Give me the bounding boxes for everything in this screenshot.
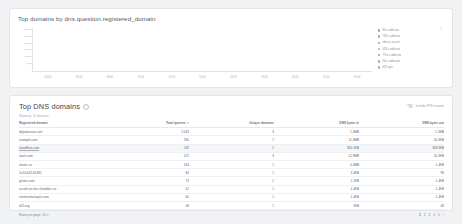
x-axis-label: 18:00: [249, 73, 279, 83]
table-row[interactable]: cloudflare.com2322850.1KB358.6KB: [19, 144, 444, 152]
x-axis-label: 06:00: [64, 73, 94, 83]
x-axis-label: 12:00: [157, 73, 187, 83]
cell-unique-domains: 3: [189, 128, 274, 136]
column-header[interactable]: DNS bytes out: [359, 121, 444, 128]
legend-item-label: 763-t-addr.ota: [382, 34, 400, 39]
cell-unique-domains: 1: [189, 193, 274, 201]
cell-registered-domain: contentstackapis.com: [19, 193, 104, 201]
cell-registered-domain: example.com: [19, 136, 104, 144]
info-icon[interactable]: [83, 104, 90, 111]
x-axis-label: 16:00: [218, 73, 248, 83]
cell-bytes-out: 1.4KB: [359, 177, 444, 185]
column-header[interactable]: Total queries▾: [104, 121, 189, 128]
domain-link[interactable]: digitalocean.com: [19, 130, 42, 134]
y-axis-tick: 15,000: [24, 49, 31, 52]
table-row[interactable]: slack.com207312.9MB34.3KB: [19, 152, 444, 160]
cell-total-queries: 67: [104, 185, 189, 193]
table-row[interactable]: d15.org4811KB48: [19, 201, 444, 209]
legend-item[interactable]: 018-t-addr.ota: [378, 47, 444, 52]
cell-total-queries: 60: [104, 193, 189, 201]
dns-domains-table: Registered domainTotal queries▾Unique do…: [19, 121, 444, 211]
column-header[interactable]: Registered domain: [19, 121, 104, 128]
chart-plot-area[interactable]: 30,00025,00020,00015,00010,0005,0000 04:…: [18, 26, 374, 84]
cell-registered-domain: elastic.co: [19, 161, 104, 169]
table-row[interactable]: gstatic.com7422.1KB1.4KB: [19, 177, 444, 185]
pagination-page[interactable]: 5: [438, 213, 440, 218]
pagination-page[interactable]: 3: [429, 213, 431, 218]
domain-link[interactable]: d15.org: [19, 204, 30, 208]
chart-legend: ⋮ 80-t-addr.ovo763-t-addr.otawbcsv-sv.ce…: [374, 26, 444, 84]
x-axis-label: 22:00: [311, 73, 341, 83]
legend-item[interactable]: 763-t-addr.ota: [378, 34, 444, 39]
legend-color-dot: [378, 48, 380, 50]
pagination: 12345›: [419, 213, 444, 218]
table-row[interactable]: elastic.co16414.4MB1.4KB: [19, 161, 444, 169]
rows-per-page-select[interactable]: Rows per page: 10 ▾: [19, 213, 49, 218]
pagination-page[interactable]: 4: [433, 213, 435, 218]
column-header[interactable]: DNS bytes in: [274, 121, 359, 128]
legend-item-label: 77m-t-addr.ota: [382, 53, 401, 58]
domain-link[interactable]: contentstackapis.com: [19, 195, 49, 199]
cell-bytes-in: 2.1KB: [274, 177, 359, 185]
legend-item[interactable]: d15.ops: [378, 65, 444, 70]
x-axis-labels: 04:0006:0008:0010:0012:0014:0016:0018:00…: [33, 73, 372, 83]
domain-link[interactable]: as-wifi-on-the-chandid.e.co: [19, 187, 56, 191]
cell-bytes-in: 11.4MB: [274, 136, 359, 144]
table-row[interactable]: contentstackapis.com6011.4KB1.4KB: [19, 193, 444, 201]
legend-item[interactable]: 5lo-t-addr.ona: [378, 59, 444, 64]
cell-total-queries: 207: [104, 152, 189, 160]
y-axis-tick: 30,000: [24, 28, 31, 31]
rows-per-page-label: Rows per page: 10: [19, 213, 46, 218]
cell-registered-domain: slack.com: [19, 152, 104, 160]
table-row[interactable]: as-wifi-on-the-chandid.e.co6714.4KB1.4KB: [19, 185, 444, 193]
table-subtitle: Showing: 10 domains: [19, 114, 89, 118]
toggle-switch[interactable]: [406, 104, 414, 108]
cell-total-queries: 84: [104, 169, 189, 177]
legend-item[interactable]: 80-t-addr.ovo: [378, 28, 444, 33]
cell-bytes-out: 44.4KB: [359, 136, 444, 144]
dns-dashboard-page: Top domains by dns.question.registered_d…: [0, 0, 462, 224]
table-body: digitalocean.com2,04331.4MB1.1MBexample.…: [19, 128, 444, 210]
table-row[interactable]: 1e10.b32.64.f828413.4KB98: [19, 169, 444, 177]
bar-series-container: [33, 28, 372, 72]
chart-body: 30,00025,00020,00015,00010,0005,0000 04:…: [18, 26, 444, 84]
legend-item[interactable]: wbcsv-sv.cert: [378, 40, 444, 45]
table-title-block: Top DNS domains Showing: 10 domains: [19, 102, 89, 118]
legend-color-dot: [378, 66, 380, 68]
cell-total-queries: 232: [104, 144, 189, 152]
cell-bytes-in: 1.4MB: [274, 128, 359, 136]
include-ptr-records-toggle[interactable]: Include PTR records: [406, 104, 444, 108]
legend-more-icon[interactable]: ⋮: [439, 27, 443, 31]
pagination-page[interactable]: 1: [419, 213, 421, 218]
pagination-next-icon[interactable]: ›: [443, 213, 444, 218]
domain-link[interactable]: slack.com: [19, 154, 33, 158]
legend-item[interactable]: 77m-t-addr.ota: [378, 53, 444, 58]
cell-bytes-out: 358.6KB: [359, 144, 444, 152]
cell-bytes-out: 34.3KB: [359, 152, 444, 160]
chart-title: Top domains by dns.question.registered_d…: [18, 15, 444, 23]
table-row[interactable]: digitalocean.com2,04331.4MB1.1MB: [19, 128, 444, 136]
table-row[interactable]: example.com280111.4MB44.4KB: [19, 136, 444, 144]
cell-unique-domains: 1: [189, 136, 274, 144]
cell-unique-domains: 1: [189, 201, 274, 209]
cell-registered-domain: as-wifi-on-the-chandid.e.co: [19, 185, 104, 193]
x-axis-label: 10:00: [126, 73, 156, 83]
cell-registered-domain: 1e10.b32.64.f82: [19, 169, 104, 177]
pagination-page[interactable]: 2: [424, 213, 426, 218]
column-header[interactable]: Unique domains: [189, 121, 274, 128]
x-axis-label: 04:00: [33, 73, 63, 83]
y-axis-tick: 20,000: [24, 42, 31, 45]
cell-unique-domains: 1: [189, 185, 274, 193]
domain-link[interactable]: example.com: [19, 138, 37, 142]
cell-registered-domain: d15.org: [19, 201, 104, 209]
toggle-label: Include PTR records: [416, 104, 444, 108]
domain-link[interactable]: cloudflare.com: [19, 146, 39, 151]
top-dns-domains-panel: Top DNS domains Showing: 10 domains Incl…: [9, 95, 453, 211]
domain-link[interactable]: 1e10.b32.64.f82: [19, 171, 41, 175]
table-head-row-group: Registered domainTotal queries▾Unique do…: [19, 121, 444, 128]
legend-item-label: 80-t-addr.ovo: [382, 28, 399, 33]
domain-link[interactable]: gstatic.com: [19, 179, 35, 183]
cell-bytes-out: 1.1MB: [359, 128, 444, 136]
legend-color-dot: [378, 60, 380, 62]
domain-link[interactable]: elastic.co: [19, 163, 32, 167]
